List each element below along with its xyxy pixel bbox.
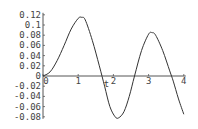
- y-tick-label: -0.06: [14, 102, 41, 112]
- y-tick-label: -0.04: [14, 91, 41, 101]
- y-tick-label: -0.08: [14, 112, 41, 122]
- x-tick-label: 0: [43, 76, 48, 86]
- y-tick-label: 0.1: [25, 20, 41, 30]
- x-tick-label: 4: [181, 76, 186, 86]
- axes: 0.120.10.080.060.040.020-0.02-0.04-0.06-…: [14, 10, 187, 122]
- y-tick-label: 0.04: [19, 51, 41, 61]
- y-tick-label: 0.02: [19, 61, 41, 71]
- y-tick-label: 0: [36, 71, 41, 81]
- y-tick-label: -0.02: [14, 81, 41, 91]
- data-line: [43, 17, 184, 118]
- y-tick-label: 0.08: [19, 30, 41, 40]
- y-tick-label: 0.12: [19, 10, 41, 20]
- x-tick-label: 2: [111, 76, 116, 86]
- line-chart: 0.120.10.080.060.040.020-0.02-0.04-0.06-…: [0, 0, 198, 129]
- x-tick-label: 3: [146, 76, 151, 86]
- x-tick-label: 1: [75, 76, 80, 86]
- y-tick-label: 0.06: [19, 40, 41, 50]
